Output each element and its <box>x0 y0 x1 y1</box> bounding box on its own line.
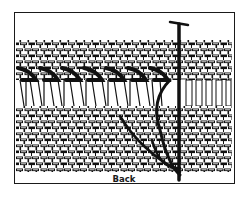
lower-weave-band <box>16 106 232 172</box>
weaving-illustration <box>0 0 248 219</box>
figure-caption: Back <box>0 174 248 184</box>
upper-weave-band <box>16 40 232 80</box>
warp-threads-open <box>20 80 231 106</box>
